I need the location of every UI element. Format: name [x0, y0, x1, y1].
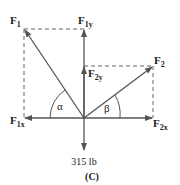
- alpha-label: α: [57, 100, 63, 112]
- beta-label: β: [104, 102, 110, 114]
- f2-label: F2: [154, 54, 165, 69]
- beta-arc: [115, 95, 120, 118]
- f1y-label: F1y: [78, 14, 93, 29]
- force-diagram: F1 F1y F2y F2 F1x F2x α β 315 lb (C): [0, 0, 180, 185]
- f1-vector: [25, 30, 84, 118]
- f1-label: F1: [10, 14, 21, 29]
- f2y-label: F2y: [88, 67, 103, 82]
- f2x-label: F2x: [153, 117, 168, 132]
- load-label: 315 lb: [71, 156, 96, 167]
- f1x-label: F1x: [10, 114, 25, 129]
- figure-caption: (C): [85, 171, 99, 183]
